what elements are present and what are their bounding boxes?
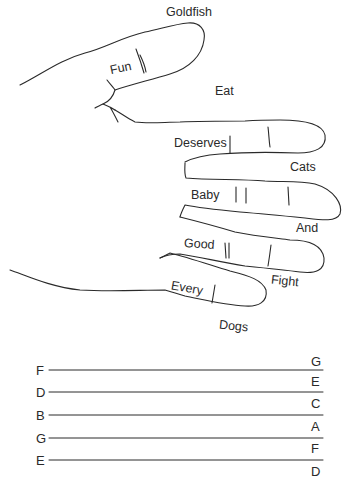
space-note-label: A [311, 420, 320, 433]
space-note-label: G [311, 355, 321, 368]
ring-crease [268, 245, 271, 266]
label-good: Good [184, 237, 215, 252]
space-note-label: E [311, 375, 320, 388]
line-note-label: E [36, 454, 45, 467]
thumb-outline [20, 23, 204, 90]
line-note-label: D [36, 386, 45, 399]
space-note-label: F [311, 442, 319, 455]
hand-drawing [0, 0, 351, 494]
space-note-label: C [311, 397, 320, 410]
little-crease [212, 285, 215, 303]
label-and: And [296, 222, 318, 235]
thumb-web [95, 80, 115, 108]
thumb-web [103, 104, 118, 122]
label-goldfish: Goldfish [166, 6, 212, 19]
line-note-label: G [36, 432, 46, 445]
label-fight: Fight [270, 274, 299, 289]
index-crease [268, 127, 270, 147]
ring-crease [225, 243, 226, 258]
label-baby: Baby [191, 189, 220, 202]
label-cats: Cats [290, 161, 316, 174]
line-note-label: B [36, 409, 45, 422]
label-deserves: Deserves [174, 137, 227, 150]
little-finger-outline [10, 253, 266, 306]
label-dogs: Dogs [218, 319, 248, 334]
line-note-label: F [36, 364, 44, 377]
space-note-label: D [311, 465, 320, 478]
middle-crease [288, 187, 289, 205]
label-eat: Eat [215, 85, 234, 98]
music-staff [49, 370, 323, 460]
